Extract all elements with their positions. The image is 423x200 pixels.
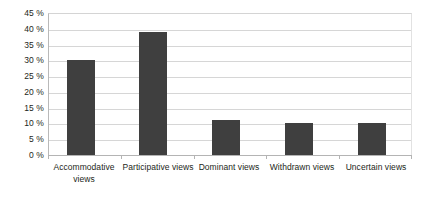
axis-tick-2 bbox=[194, 155, 195, 159]
axis-tick-4 bbox=[339, 155, 340, 159]
x-tick-label-uncertain-views: Uncertain views bbox=[336, 162, 416, 174]
y-tick-label-25: 25 % bbox=[0, 72, 44, 81]
y-tick-label-5: 5 % bbox=[0, 135, 44, 144]
y-tick-label-0: 0 % bbox=[0, 151, 44, 160]
y-axis: 45 % 40 % 35 % 30 % 25 % 20 % 15 % 10 % … bbox=[0, 0, 44, 200]
y-tick-label-20: 20 % bbox=[0, 88, 44, 97]
axis-tick-5 bbox=[411, 155, 412, 159]
bar-withdrawn-views bbox=[285, 123, 313, 155]
y-tick-label-10: 10 % bbox=[0, 119, 44, 128]
y-tick-label-35: 35 % bbox=[0, 40, 44, 49]
y-tick-label-30: 30 % bbox=[0, 56, 44, 65]
bar-accommodative-views bbox=[67, 60, 95, 155]
axis-baseline bbox=[49, 155, 411, 156]
axis-tick-1 bbox=[121, 155, 122, 159]
x-tick-label-dominant-views: Dominant views bbox=[189, 162, 269, 174]
bars-layer bbox=[49, 14, 411, 155]
y-tick-label-40: 40 % bbox=[0, 25, 44, 34]
y-tick-label-45: 45 % bbox=[0, 9, 44, 18]
axis-tick-3 bbox=[266, 155, 267, 159]
axis-tick-0 bbox=[48, 155, 49, 159]
y-tick-label-15: 15 % bbox=[0, 103, 44, 112]
bar-participative-views bbox=[139, 32, 167, 155]
bar-chart: 45 % 40 % 35 % 30 % 25 % 20 % 15 % 10 % … bbox=[0, 0, 423, 200]
x-axis: Accommodative views Participative views … bbox=[48, 162, 412, 200]
x-tick-label-withdrawn-views: Withdrawn views bbox=[261, 162, 343, 174]
x-tick-label-accommodative-views: Accommodative views bbox=[44, 162, 124, 185]
bar-uncertain-views bbox=[358, 123, 386, 155]
bar-dominant-views bbox=[212, 120, 240, 155]
plot-area bbox=[48, 13, 412, 155]
x-tick-label-participative-views: Participative views bbox=[118, 162, 198, 174]
